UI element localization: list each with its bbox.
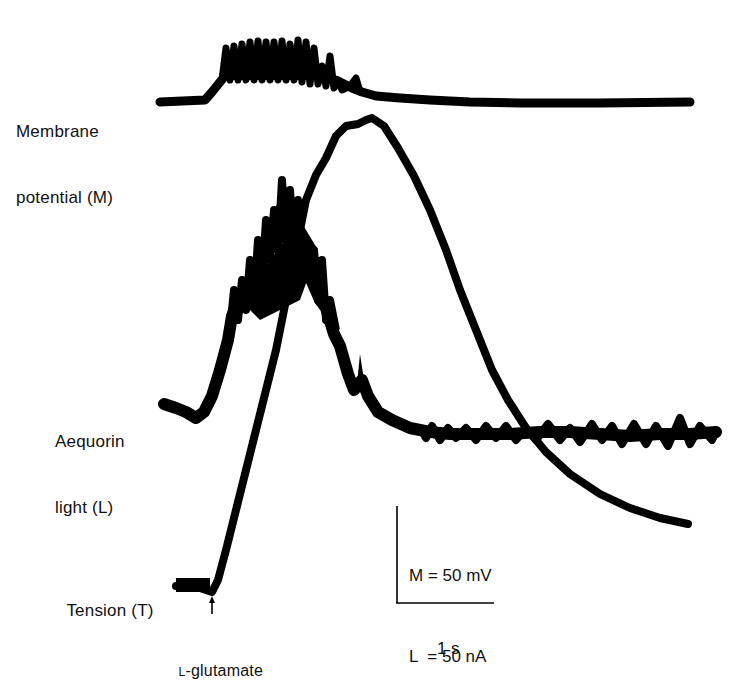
figure: Membrane potential (M) Aequorin light (L… [0, 0, 745, 680]
stimulus-arrow-icon [209, 596, 215, 614]
aequorin-light-label: Aequorin light (L) [55, 387, 125, 563]
stimulus-label: L-glutamate [160, 638, 263, 680]
scale-membrane: M = 50 mV [409, 562, 492, 589]
membrane-label-line2: potential (M) [16, 187, 113, 209]
aequorin-label-line2: light (L) [55, 497, 125, 519]
membrane-potential-label: Membrane potential (M) [16, 77, 113, 253]
scale-time: 1 s [418, 608, 460, 680]
stimulus-label-suffix: -glutamate [185, 662, 263, 679]
membrane-label-line1: Membrane [16, 121, 113, 143]
aequorin-light-trace [164, 180, 718, 446]
tension-label: Tension (T) [47, 578, 154, 644]
scale-time-text: 1 s [437, 639, 460, 658]
membrane-potential-trace [160, 40, 690, 103]
aequorin-label-line1: Aequorin [55, 431, 125, 453]
tension-label-text: Tension (T) [66, 601, 153, 620]
